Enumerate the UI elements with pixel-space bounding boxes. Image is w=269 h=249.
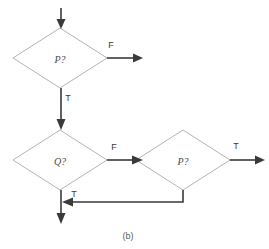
edge-label-p-right-true: T [233, 141, 239, 151]
edge-label-p-top-true: T [65, 93, 71, 103]
flowchart-canvas [0, 0, 269, 249]
entry-arrowhead-icon [57, 19, 66, 29]
q-true-arrowhead-icon [57, 213, 66, 224]
figure-caption: (b) [123, 231, 134, 241]
decision-label-p-top: P? [54, 54, 65, 65]
edge-label-q-false: F [111, 142, 117, 152]
p-right-loopback-connector-line [72, 190, 183, 202]
flowchart-figure: P? Q? P? F T F T T (b) [0, 0, 269, 249]
p-top-true-arrowhead-icon [57, 119, 66, 130]
edge-label-p-top-false: F [108, 40, 114, 50]
decision-label-q: Q? [54, 156, 66, 167]
decision-label-p-right: P? [177, 156, 188, 167]
edge-label-q-true: T [71, 189, 77, 199]
p-right-true-arrowhead-icon [255, 156, 265, 165]
p-top-false-arrowhead-icon [133, 54, 143, 63]
